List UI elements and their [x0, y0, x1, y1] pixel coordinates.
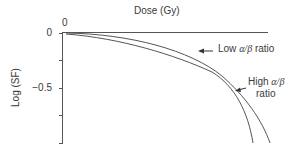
annotation-high-alpha-beta: High α/β — [248, 76, 284, 87]
chart-canvas — [0, 0, 300, 149]
y-tick-label-0: 0 — [46, 27, 52, 38]
x-axis-label: Dose (Gy) — [134, 5, 180, 16]
arrow-low-annotation — [198, 49, 213, 54]
annotation-high-alpha-beta-line2: ratio — [256, 88, 275, 99]
y-axis-label: Log (SF) — [10, 63, 21, 113]
y-ticks — [59, 34, 62, 144]
x-tick-label-0: 0 — [62, 17, 68, 28]
annotation-low-alpha-beta: Low α/β ratio — [218, 43, 274, 54]
y-tick-label-neg-0-5: −0.5 — [32, 82, 52, 93]
